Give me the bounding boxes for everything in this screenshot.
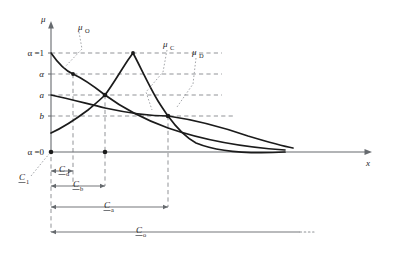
leader-mu-c: [146, 50, 167, 110]
bracket-ca-cap-left: [51, 205, 56, 209]
interval-label-cb: C b: [73, 179, 84, 192]
y-tick-label-b: b: [40, 111, 45, 121]
gridlines-horizontal: [51, 53, 233, 116]
curve-mu-o: [51, 53, 285, 150]
y-axis-arrowhead: [48, 21, 54, 29]
interval-label-cd: C d: [59, 164, 71, 177]
node-a-intersection: [103, 93, 108, 98]
interval-label-co-base: C: [136, 225, 143, 235]
curve-label-mu-o-base: μ: [77, 22, 83, 32]
annotation-label-c1-base: C: [19, 172, 26, 182]
intersection-nodes: [49, 51, 171, 154]
interval-label-ca-base: C: [104, 200, 111, 210]
curve-label-mu-c: μ C: [162, 39, 174, 51]
curve-group: [51, 53, 293, 153]
figure-canvas: μ x α =1 α a b α =0 μ O μ C μ D C d C b …: [0, 0, 396, 255]
x-axis-arrowhead: [365, 149, 373, 155]
node-peak-alpha1: [131, 51, 135, 55]
node-alpha-intersection: [71, 72, 75, 76]
leader-mu-o: [63, 32, 82, 69]
curve-label-mu-d-sub: D: [199, 52, 204, 59]
interval-bracket-co: [51, 230, 314, 234]
annotation-label-c1-sub: 1: [26, 178, 29, 185]
interval-label-co: C o: [136, 225, 147, 238]
y-axis-label: μ: [40, 14, 46, 24]
bracket-cb-cap-right: [100, 184, 105, 188]
curve-label-mu-c-sub: C: [170, 44, 174, 51]
node-b-intersection: [166, 114, 171, 119]
leader-lines: [31, 32, 196, 176]
interval-label-cb-sub: b: [80, 185, 83, 192]
y-tick-label-alpha: α: [39, 69, 44, 79]
curve-label-mu-c-base: μ: [162, 39, 168, 49]
leader-mu-d: [177, 58, 196, 107]
interval-label-ca-sub: a: [111, 206, 114, 213]
bracket-ca-cap-right: [163, 205, 168, 209]
y-tick-label-a: a: [40, 90, 45, 100]
curve-label-mu-d: μ D: [191, 47, 204, 59]
interval-label-ca: C a: [104, 200, 115, 213]
bracket-cd-cap-left: [51, 169, 56, 173]
node-axis-cb: [103, 150, 108, 155]
bracket-cb-cap-left: [51, 184, 56, 188]
interval-label-cd-base: C: [59, 164, 66, 174]
y-tick-label-alpha1: α =1: [27, 48, 44, 58]
annotation-label-c1: C 1: [19, 172, 30, 185]
bracket-co-cap-left: [51, 230, 56, 234]
x-axis-label: x: [365, 158, 370, 168]
interval-label-cb-base: C: [73, 179, 80, 189]
interval-label-co-sub: o: [143, 231, 146, 238]
y-tick-label-alpha0: α =0: [27, 147, 44, 157]
curve-label-mu-d-base: μ: [191, 47, 197, 57]
curve-label-mu-o-sub: O: [85, 27, 90, 34]
